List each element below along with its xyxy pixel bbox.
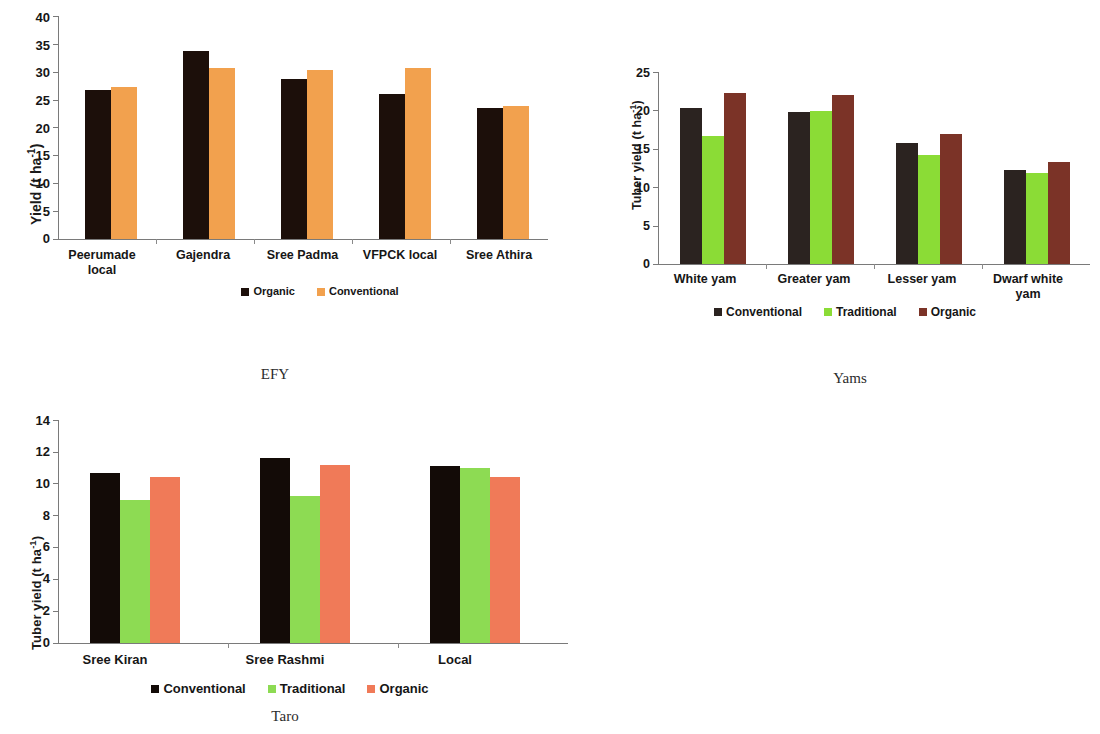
y-tick-label: 5 (26, 205, 50, 218)
y-tick-label: 4 (26, 572, 50, 585)
bar-traditional (810, 111, 832, 264)
y-tick-label: 10 (628, 182, 650, 195)
legend-taro: Conventional Traditional Organic (90, 682, 490, 695)
y-tick-label: 5 (628, 220, 650, 233)
x-category-label: Dwarf white yam (982, 272, 1074, 302)
x-axis-line-efy (58, 239, 548, 240)
x-category-label: Gajendra (158, 248, 248, 263)
x-axis-tick (450, 239, 451, 244)
x-category-label-line: yam (982, 287, 1074, 302)
bars-container-efy (58, 17, 548, 239)
x-category-label-line: Sree Padma (255, 248, 350, 263)
y-tick-label: 8 (26, 509, 50, 522)
x-axis-tick (766, 264, 767, 269)
y-axis-tick (53, 643, 58, 644)
bar-conventional (788, 112, 810, 264)
legend-swatch-icon (367, 685, 375, 693)
legend-label: Organic (253, 286, 295, 297)
legend-label: Organic (379, 682, 428, 695)
bar-conventional (430, 466, 460, 643)
x-axis-tick (254, 239, 255, 244)
x-axis-tick (228, 643, 229, 648)
bar-organic (1048, 162, 1070, 264)
legend-item-conventional[interactable]: Conventional (151, 682, 245, 695)
y-tick-label: 25 (26, 94, 50, 107)
legend-item-traditional[interactable]: Traditional (824, 306, 897, 318)
legend-swatch-icon (268, 685, 276, 693)
bar-conventional (405, 68, 431, 239)
bar-conventional (90, 473, 120, 643)
x-category-label-line: Dwarf white (982, 272, 1074, 287)
y-tick-label: 35 (26, 39, 50, 52)
y-axis-tick (53, 239, 58, 240)
x-category-label-line: White yam (660, 272, 750, 287)
y-tick-label: 15 (26, 149, 50, 162)
bar-conventional (307, 70, 333, 239)
legend-item-conventional[interactable]: Conventional (714, 306, 802, 318)
bar-organic (477, 108, 503, 239)
legend-swatch-icon (714, 308, 722, 316)
plot-area-yams: 25 20 15 10 5 0 (600, 0, 1100, 280)
plot-area-taro: 14 12 10 8 6 4 2 0 (0, 400, 560, 660)
x-category-label: White yam (660, 272, 750, 287)
bars-container-taro (58, 420, 568, 643)
legend-label: Conventional (329, 286, 399, 297)
x-category-label-line: Sree Kiran (62, 652, 168, 667)
legend-item-organic[interactable]: Organic (241, 286, 295, 297)
bar-organic (281, 79, 307, 239)
x-category-label: VFPCK local (352, 248, 448, 263)
x-category-label: Greater yam (766, 272, 862, 287)
x-category-label-line: Sree Rashmi (232, 652, 338, 667)
bar-organic (320, 465, 350, 643)
y-tick-label: 10 (26, 177, 50, 190)
bar-conventional (1004, 170, 1026, 264)
legend-label: Conventional (163, 682, 245, 695)
y-tick-label: 15 (628, 143, 650, 156)
legend-item-organic[interactable]: Organic (367, 682, 428, 695)
bar-conventional (503, 106, 529, 239)
x-axis-tick (982, 264, 983, 269)
x-category-label: Peerumade local (57, 248, 147, 278)
bar-conventional (209, 68, 235, 239)
x-category-label-line: Sree Athira (452, 248, 546, 263)
x-axis-tick (398, 643, 399, 648)
bar-organic (379, 94, 405, 239)
x-category-label-line: local (57, 263, 147, 278)
y-axis-tick (653, 264, 658, 265)
x-category-label: Lesser yam (876, 272, 968, 287)
y-tick-label: 10 (26, 477, 50, 490)
panel-caption-taro: Taro (190, 708, 380, 725)
legend-swatch-icon (151, 685, 159, 693)
legend-swatch-icon (824, 308, 832, 316)
legend-item-organic[interactable]: Organic (919, 306, 976, 318)
chart-panel-efy: Yield (t ha-1) 40 35 30 25 20 15 10 5 0 (0, 0, 560, 400)
bar-organic (940, 134, 962, 264)
legend-item-conventional[interactable]: Conventional (317, 286, 399, 297)
bar-organic (183, 51, 209, 239)
bar-traditional (1026, 173, 1048, 264)
legend-yams: Conventional Traditional Organic (660, 306, 1030, 318)
legend-item-traditional[interactable]: Traditional (268, 682, 346, 695)
bar-organic (832, 95, 854, 264)
x-axis-line-taro (58, 643, 568, 644)
y-tick-label: 2 (26, 604, 50, 617)
x-category-label-line: Peerumade (57, 248, 147, 263)
y-tick-label: 30 (26, 66, 50, 79)
x-category-label-line: Lesser yam (876, 272, 968, 287)
bar-traditional (120, 500, 150, 643)
bar-organic (490, 477, 520, 643)
bar-conventional (680, 108, 702, 264)
legend-label: Traditional (836, 306, 897, 318)
bar-conventional (111, 87, 137, 239)
bar-conventional (896, 143, 918, 264)
legend-swatch-icon (241, 288, 249, 296)
x-category-label: Sree Rashmi (232, 652, 338, 667)
plot-area-efy: 40 35 30 25 20 15 10 5 0 (0, 0, 560, 250)
y-tick-label: 0 (26, 636, 50, 649)
x-category-label: Sree Kiran (62, 652, 168, 667)
x-category-label: Sree Padma (255, 248, 350, 263)
bars-container-yams (658, 72, 1090, 264)
legend-swatch-icon (317, 288, 325, 296)
x-category-label-line: Greater yam (766, 272, 862, 287)
bar-organic (85, 90, 111, 239)
